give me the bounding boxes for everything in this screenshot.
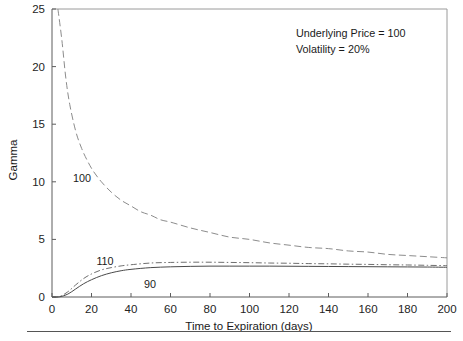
chart-background	[0, 0, 463, 341]
x-tick-label: 60	[164, 303, 177, 315]
x-tick-label: 0	[49, 303, 55, 315]
y-tick-label: 15	[32, 118, 45, 130]
y-tick-label: 5	[39, 233, 45, 245]
x-tick-label: 180	[398, 303, 417, 315]
curve-label-100: 100	[73, 172, 91, 184]
x-tick-label: 20	[85, 303, 98, 315]
annotation-underlying-price: Underlying Price = 100	[296, 27, 406, 39]
x-tick-label: 160	[358, 303, 377, 315]
annotation-volatility: Volatility = 20%	[296, 43, 370, 55]
y-axis-title: Gamma	[7, 139, 19, 181]
x-tick-label: 40	[125, 303, 138, 315]
gamma-vs-time-figure: 0510152025 020406080100120140160180200 1…	[0, 0, 463, 341]
y-tick-label: 10	[32, 176, 45, 188]
chart-canvas: 0510152025 020406080100120140160180200 1…	[0, 0, 463, 341]
x-tick-label: 140	[319, 303, 338, 315]
x-tick-label: 100	[240, 303, 259, 315]
x-tick-label: 200	[437, 303, 456, 315]
curve-label-90: 90	[144, 278, 156, 290]
y-tick-label: 25	[32, 3, 45, 15]
y-tick-label: 0	[39, 291, 45, 303]
y-tick-label: 20	[32, 61, 45, 73]
page-separator-rule	[27, 331, 451, 332]
x-tick-label: 80	[204, 303, 217, 315]
x-tick-label: 120	[279, 303, 298, 315]
curve-label-110: 110	[96, 255, 113, 267]
